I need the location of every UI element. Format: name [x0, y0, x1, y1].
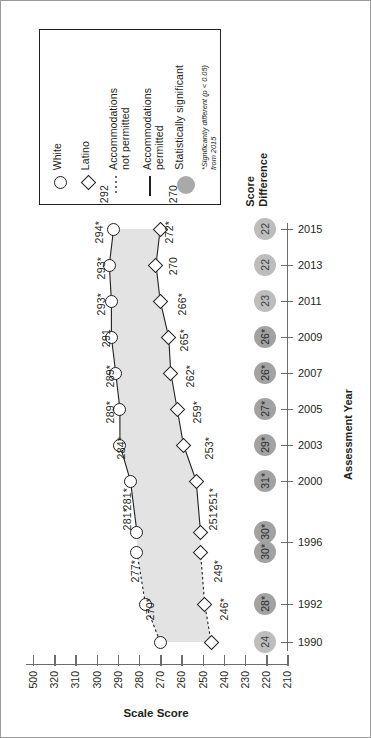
score-difference-bubble: 27* [254, 398, 276, 420]
score-tick-label: 320 [48, 671, 60, 689]
score-tick [203, 655, 204, 666]
year-tick [281, 604, 293, 605]
data-marker-white [154, 636, 167, 649]
score-difference-value: 24 [259, 636, 271, 648]
data-label-latino: 251* [207, 508, 219, 530]
score-tick-label: 250 [197, 671, 209, 689]
year-tick [281, 337, 293, 338]
year-tick [281, 265, 293, 266]
score-tick [118, 655, 119, 666]
score-difference-bubble: 28* [254, 593, 276, 615]
score-difference-value: 26* [259, 329, 271, 345]
score-tick-label: 260 [175, 671, 187, 689]
data-label-white: 277* [129, 560, 141, 582]
scale-score-title: Scale Score [1, 707, 311, 719]
score-difference-bubble: 23 [254, 290, 276, 312]
year-label: 1990 [298, 636, 322, 648]
data-label-white: 270* [144, 598, 156, 620]
score-difference-value: 22 [259, 259, 271, 271]
data-label-white: 289* [104, 365, 116, 387]
data-label-latino: 272* [163, 221, 175, 243]
year-tick [281, 642, 293, 643]
score-tick [33, 655, 34, 666]
score-tick-label: 500 [27, 671, 39, 689]
data-marker-white [124, 475, 137, 488]
data-label-latino: 265* [178, 329, 190, 351]
score-difference-value: 26* [259, 365, 271, 381]
score-tick [75, 655, 76, 666]
score-tick [287, 655, 288, 666]
score-tick [245, 655, 246, 666]
data-label-white: 294* [93, 221, 105, 243]
score-tick-label: 280 [133, 671, 145, 689]
data-label-white: 293* [95, 257, 107, 279]
year-tick [281, 445, 293, 446]
year-axis-line [287, 223, 288, 651]
data-label-latino: 270 [167, 257, 179, 275]
score-tick-label: 290 [112, 671, 124, 689]
year-label: 2005 [298, 403, 322, 415]
score-tick [224, 655, 225, 666]
year-label: 2000 [298, 475, 322, 487]
year-label: 2013 [298, 259, 322, 271]
score-difference-value: 30* [259, 524, 271, 540]
data-label-latino: 246* [218, 598, 230, 620]
year-label: 2003 [298, 439, 322, 451]
score-difference-bubble: 22 [254, 254, 276, 276]
score-difference-bubble: 26* [254, 326, 276, 348]
data-label-latino: 266* [176, 293, 188, 315]
data-label-white: 289* [104, 401, 116, 423]
data-marker-white [130, 546, 143, 559]
score-tick-label: 300 [91, 671, 103, 689]
score-tick [97, 655, 98, 666]
score-tick [160, 655, 161, 666]
data-label-white: 292 [98, 185, 110, 203]
score-difference-value: 28* [259, 596, 271, 612]
score-difference-value: 31* [259, 473, 271, 489]
data-marker-white [107, 223, 120, 236]
data-label-latino: 262* [184, 365, 196, 387]
score-difference-value: 30* [259, 544, 271, 560]
score-difference-value: 22 [259, 223, 271, 235]
data-label-white: 284* [115, 437, 127, 459]
year-tick [281, 409, 293, 410]
score-difference-bubble: 31* [254, 470, 276, 492]
score-tick-label: 240 [218, 671, 230, 689]
year-tick [281, 373, 293, 374]
score-difference-value: 29* [259, 437, 271, 453]
score-tick-label: 230 [239, 671, 251, 689]
year-label: 2009 [298, 331, 322, 343]
data-label-white: 293* [95, 293, 107, 315]
data-label-latino: 253* [203, 437, 215, 459]
assessment-year-title: Assessment Year [342, 389, 354, 480]
score-tick-label: 220 [260, 671, 272, 689]
year-tick [281, 301, 293, 302]
year-tick [281, 229, 293, 230]
data-label-latino: 249* [212, 560, 224, 582]
figure-frame: White Latino Accommodations not permitte… [0, 0, 371, 738]
score-difference-value: 23 [259, 295, 271, 307]
year-label: 1996 [298, 536, 322, 548]
score-tick [54, 655, 55, 666]
data-label-latino: 270 [167, 185, 179, 203]
year-label: 2011 [298, 295, 322, 307]
score-tick-label: 270 [154, 671, 166, 689]
score-difference-header: Score Difference [244, 153, 270, 207]
score-difference-bubble: 26* [254, 362, 276, 384]
score-difference-value: 27* [259, 401, 271, 417]
score-difference-bubble: 22 [254, 218, 276, 240]
score-difference-bubble: 24 [254, 631, 276, 653]
data-label-white: 291 [100, 329, 112, 347]
score-tick-label: 210 [281, 671, 293, 689]
year-tick [281, 542, 293, 543]
data-label-white: 281* [121, 508, 133, 530]
year-tick [281, 481, 293, 482]
year-label: 1992 [298, 598, 322, 610]
score-tick [181, 655, 182, 666]
score-axis-line [26, 664, 288, 665]
data-label-latino: 259* [191, 401, 203, 423]
score-difference-bubble: 29* [254, 434, 276, 456]
score-difference-bubble: 30* [254, 521, 276, 543]
score-tick [266, 655, 267, 666]
score-difference-bubble: 30* [254, 541, 276, 563]
